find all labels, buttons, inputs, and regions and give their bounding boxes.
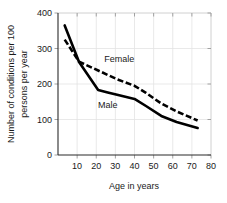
x-axis-tick-labels: 1020304050607080	[72, 161, 216, 171]
y-tick-label: 300	[37, 44, 52, 54]
chart-figure: 0100200300400 1020304050607080 FemaleMal…	[0, 0, 227, 203]
y-tick-label: 400	[37, 8, 52, 18]
y-axis-title-line1: Number of conditions per 100	[6, 25, 16, 143]
x-tick-label: 10	[72, 161, 82, 171]
x-tick-label: 30	[110, 161, 120, 171]
y-tick-label: 0	[47, 150, 52, 160]
y-axis-tick-labels: 0100200300400	[37, 8, 52, 160]
y-tick-label: 100	[37, 115, 52, 125]
x-axis-title: Age in years	[109, 181, 160, 191]
y-axis-title-line2: persons per year	[19, 50, 29, 118]
x-tick-label: 50	[149, 161, 159, 171]
series-annotation-female: Female	[104, 54, 134, 64]
x-tick-label: 70	[187, 161, 197, 171]
y-axis-title-group: Number of conditions per 100 persons per…	[6, 25, 29, 143]
y-tick-label: 200	[37, 79, 52, 89]
series-annotation-male: Male	[98, 100, 118, 110]
x-axis-title-group: Age in years	[109, 181, 160, 191]
line-chart: 0100200300400 1020304050607080 FemaleMal…	[0, 0, 227, 203]
x-tick-label: 20	[91, 161, 101, 171]
x-tick-label: 80	[206, 161, 216, 171]
x-tick-label: 60	[168, 161, 178, 171]
x-tick-label: 40	[129, 161, 139, 171]
